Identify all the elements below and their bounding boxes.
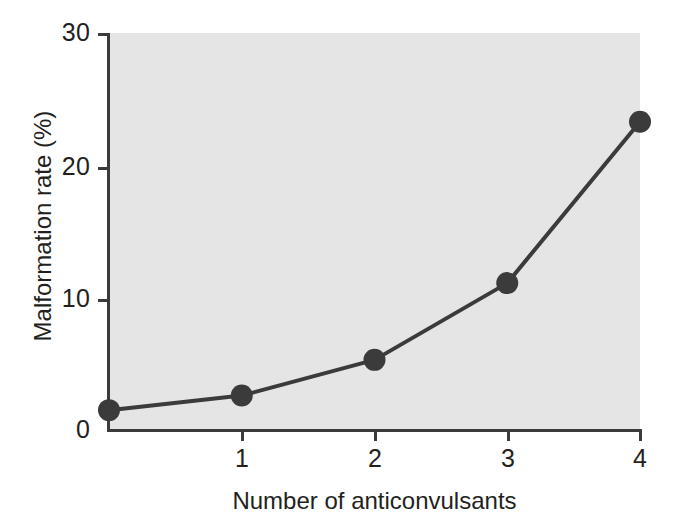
x-tick-label-2: 2 (355, 444, 395, 473)
x-tick-3 (507, 431, 510, 441)
x-tick-1 (241, 431, 244, 441)
plot-area (109, 33, 640, 430)
y-tick-30 (98, 33, 107, 36)
y-axis-line (107, 33, 110, 432)
y-tick-20 (98, 167, 107, 170)
x-axis-title: Number of anticonvulsants (109, 487, 640, 515)
x-tick-2 (374, 431, 377, 441)
x-tick-4 (639, 431, 642, 441)
y-tick-label-0-wrap: 0 (0, 415, 90, 445)
x-tick-label-4: 4 (620, 444, 660, 473)
y-tick-label-30: 30 (0, 18, 90, 47)
x-tick-label-1: 1 (222, 444, 262, 473)
chart-figure: 30 20 10 0 1 2 3 4 Number of anticonvuls… (0, 0, 675, 526)
y-tick-10 (98, 299, 107, 302)
x-tick-label-3: 3 (488, 444, 528, 473)
y-axis-title: Malformation rate (%) (29, 61, 57, 391)
y-tick-label-0: 0 (0, 415, 90, 444)
y-tick-label-30-wrap: 30 (0, 18, 90, 48)
